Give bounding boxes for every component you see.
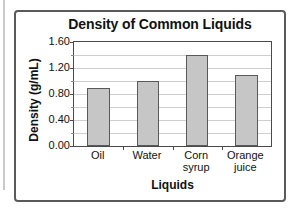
gridline xyxy=(74,68,271,69)
x-axis-label-corn-syrup: Cornsyrup xyxy=(172,149,221,173)
bar-oil xyxy=(87,88,110,147)
y-axis-tick-labels: 0.000.400.801.201.60 xyxy=(28,41,70,147)
x-axis-title: Liquids xyxy=(73,178,272,192)
x-label-line: Orange xyxy=(221,149,270,161)
y-tick-mark xyxy=(70,94,74,95)
y-tick-mark xyxy=(70,42,74,43)
y-tick-label: 1.20 xyxy=(30,61,70,73)
x-label-line: juice xyxy=(221,161,270,173)
x-label-line: Oil xyxy=(73,149,122,161)
x-axis-label-orange-juice: Orangejuice xyxy=(221,149,270,173)
y-tick-mark xyxy=(70,120,74,121)
y-tick-label: 0.00 xyxy=(30,139,70,151)
plot-area xyxy=(73,41,272,147)
y-tick-mark xyxy=(70,146,74,147)
x-label-line: Water xyxy=(122,149,171,161)
y-tick-label: 1.60 xyxy=(30,35,70,47)
x-axis-label-water: Water xyxy=(122,149,171,161)
y-tick-label: 0.40 xyxy=(30,113,70,125)
y-tick-label: 0.80 xyxy=(30,87,70,99)
bar-water xyxy=(137,81,160,146)
x-axis-label-oil: Oil xyxy=(73,149,122,161)
gridline xyxy=(74,55,271,56)
x-label-line: syrup xyxy=(172,161,221,173)
x-label-line: Corn xyxy=(172,149,221,161)
y-tick-mark-minor xyxy=(71,81,74,82)
x-axis-category-labels: OilWaterCornsyrupOrangejuice xyxy=(73,149,272,177)
bar-orange-juice xyxy=(235,75,258,147)
bar-corn-syrup xyxy=(186,55,209,146)
page-edge-artifact xyxy=(3,0,5,190)
y-tick-mark xyxy=(70,68,74,69)
y-tick-mark-minor xyxy=(71,107,74,108)
y-tick-mark-minor xyxy=(71,133,74,134)
chart-title: Density of Common Liquids xyxy=(40,16,280,32)
y-tick-mark-minor xyxy=(71,55,74,56)
